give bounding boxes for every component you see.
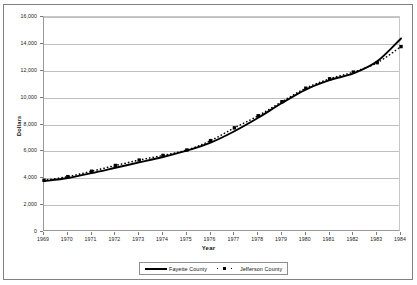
x-axis-title: Year (0, 245, 417, 251)
x-axis-tick-label: 1978 (251, 236, 263, 242)
x-axis-tick-mark (210, 232, 211, 235)
x-axis-tick-mark (43, 232, 44, 235)
data-point-marker (304, 87, 307, 90)
x-axis-tick-mark (329, 232, 330, 235)
chart-figure: Dollars 02,0004,0006,0008,00010,00012,00… (0, 0, 417, 285)
data-point-marker (209, 139, 212, 142)
x-axis-tick-label: 1976 (204, 236, 216, 242)
y-axis-tick-label: 0 (34, 228, 37, 234)
y-axis-title: Dollars (16, 116, 22, 136)
data-point-marker (257, 114, 260, 117)
x-axis-tick-label: 1971 (85, 236, 97, 242)
x-axis-tick-mark (281, 232, 282, 235)
x-axis-tick-label: 1973 (132, 236, 144, 242)
x-axis-tick-label: 1984 (394, 236, 406, 242)
dotted-line-marker-icon (216, 267, 238, 271)
x-axis-tick-label: 1974 (156, 236, 168, 242)
series-fayette-county (44, 39, 401, 182)
y-axis-tick-label: 6,000 (24, 147, 37, 153)
data-point-marker (352, 70, 355, 73)
x-axis-tick-mark (67, 232, 68, 235)
data-point-marker (233, 126, 236, 129)
series-jefferson-county (42, 45, 402, 182)
x-axis-tick-label: 1969 (37, 236, 49, 242)
x-axis-tick-mark (186, 232, 187, 235)
series-line (44, 39, 401, 182)
legend-label-fayette: Fayette County (169, 266, 207, 272)
series-layer (44, 17, 401, 232)
data-point-marker (328, 77, 331, 80)
x-axis-tick-mark (400, 232, 401, 235)
data-point-marker (90, 170, 93, 173)
x-axis-tick-mark (376, 232, 377, 235)
data-point-marker (138, 158, 141, 161)
legend-label-jefferson: Jefferson County (240, 266, 282, 272)
x-axis-tick-mark (162, 232, 163, 235)
data-point-marker (280, 100, 283, 103)
x-axis-tick-mark (91, 232, 92, 235)
x-axis-tick-mark (138, 232, 139, 235)
data-point-marker (185, 148, 188, 151)
y-axis-tick-label: 2,000 (24, 201, 37, 207)
legend-entry-jefferson: Jefferson County (216, 266, 282, 272)
x-axis-tick-label: 1981 (323, 236, 335, 242)
x-axis-tick-mark (305, 232, 306, 235)
data-point-marker (399, 45, 402, 48)
x-axis-tick-mark (233, 232, 234, 235)
x-axis-tick-label: 1977 (227, 236, 239, 242)
chart-legend: Fayette County Jefferson County (139, 262, 288, 275)
y-axis-tick-label: 12,000 (21, 67, 37, 73)
x-axis-tick-mark (257, 232, 258, 235)
x-axis-tick-mark (352, 232, 353, 235)
x-axis-tick-label: 1979 (275, 236, 287, 242)
x-axis-tick-label: 1972 (108, 236, 120, 242)
data-point-marker (376, 61, 379, 64)
x-axis-tick-mark (114, 232, 115, 235)
x-axis-tick-label: 1983 (370, 236, 382, 242)
plot-area (43, 16, 400, 231)
legend-entry-fayette: Fayette County (145, 266, 207, 272)
x-axis-tick-label: 1970 (61, 236, 73, 242)
y-axis-tick-label: 4,000 (24, 174, 37, 180)
data-point-marker (161, 154, 164, 157)
y-axis-tick-label: 10,000 (21, 94, 37, 100)
y-axis-tick-label: 16,000 (21, 13, 37, 19)
x-axis-tick-label: 1980 (299, 236, 311, 242)
data-point-marker (114, 164, 117, 167)
y-axis-tick-label: 14,000 (21, 40, 37, 46)
y-axis-tick-label: 8,000 (24, 121, 37, 127)
x-axis-tick-label: 1982 (346, 236, 358, 242)
data-point-marker (66, 175, 69, 178)
data-point-marker (42, 179, 45, 182)
x-axis-tick-label: 1975 (180, 236, 192, 242)
solid-line-icon (145, 268, 167, 270)
series-line (44, 47, 401, 181)
